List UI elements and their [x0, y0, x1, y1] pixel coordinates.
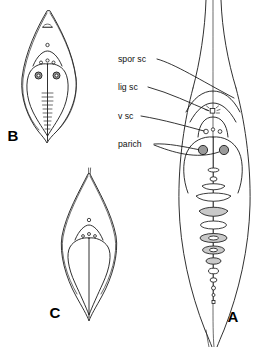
figure-a-drawing: [179, 0, 250, 347]
illustration-plate: spor sc lig sc v sc parich A B C: [0, 0, 262, 347]
figure-letter-c: C: [50, 304, 61, 321]
figure-letter-a: A: [228, 308, 239, 325]
figure-b-drawing: [22, 11, 77, 143]
label-spor-sc: spor sc: [118, 54, 147, 64]
label-parich: parich: [118, 139, 142, 149]
leader-lines: [141, 59, 234, 155]
figure-letter-b: B: [8, 127, 19, 144]
label-v-sc: v sc: [118, 111, 134, 121]
label-lig-sc: lig sc: [118, 82, 138, 92]
plate-canvas: spor sc lig sc v sc parich A B C: [0, 0, 262, 347]
figure-c-drawing: [61, 168, 116, 321]
